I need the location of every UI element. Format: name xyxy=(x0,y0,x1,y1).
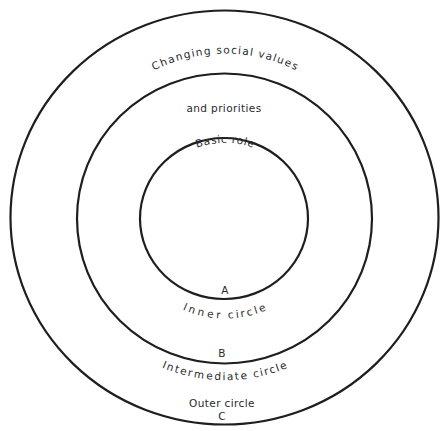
intermediate-top-label-line1: Changing social values xyxy=(150,44,301,73)
outer-letter: C xyxy=(218,410,226,422)
inner-bottom-label: Inner circle xyxy=(182,300,268,320)
intermediate-letter: B xyxy=(218,347,226,359)
inner-letter: A xyxy=(221,284,229,296)
inner-circle xyxy=(140,138,308,299)
intermediate-bottom-label: Intermediate circle xyxy=(161,358,289,382)
intermediate-top-label-line2: and priorities xyxy=(186,102,261,114)
concentric-circles-diagram: Major social problems Outer circle C Cha… xyxy=(0,0,444,431)
outer-bottom-label: Outer circle xyxy=(189,397,255,409)
